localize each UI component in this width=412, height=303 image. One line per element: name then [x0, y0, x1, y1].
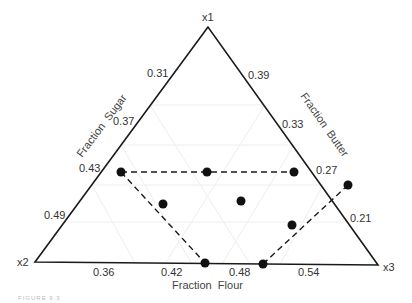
bottom-tick: 0.48 [229, 266, 250, 278]
vertex-label-x1: x1 [202, 11, 214, 23]
left-tick: 0.43 [79, 162, 100, 174]
left-tick: 0.31 [147, 67, 168, 79]
data-point [201, 259, 210, 268]
data-point [159, 200, 168, 209]
data-point [288, 221, 297, 230]
right-axis-title: Fraction Butter [298, 90, 351, 159]
right-tick: 0.21 [350, 212, 371, 224]
data-point [237, 197, 246, 206]
constraint-region [121, 172, 348, 264]
vertex-label-x2: x2 [17, 256, 29, 268]
left-tick: 0.37 [113, 115, 134, 127]
right-tick: 0.33 [282, 118, 303, 130]
vertex-label-x3: x3 [383, 261, 395, 273]
figure-caption: FIGURE 9.3 [18, 295, 61, 301]
data-point [117, 168, 126, 177]
design-points [117, 168, 353, 269]
grid-lines [64, 105, 350, 264]
data-point [203, 168, 212, 177]
data-point [344, 181, 353, 190]
data-point [290, 168, 299, 177]
bottom-tick: 0.54 [298, 266, 319, 278]
left-tick: 0.49 [44, 209, 65, 221]
right-tick: 0.27 [316, 164, 337, 176]
bottom-tick: 0.42 [161, 266, 182, 278]
data-point [259, 260, 268, 269]
ternary-chart: x1 x2 x3 0.31 0.37 0.43 0.49 0.39 0.33 0… [0, 0, 412, 303]
bottom-tick: 0.36 [93, 266, 114, 278]
right-tick: 0.39 [248, 69, 269, 81]
bottom-axis-title: Fraction Flour [172, 279, 243, 291]
